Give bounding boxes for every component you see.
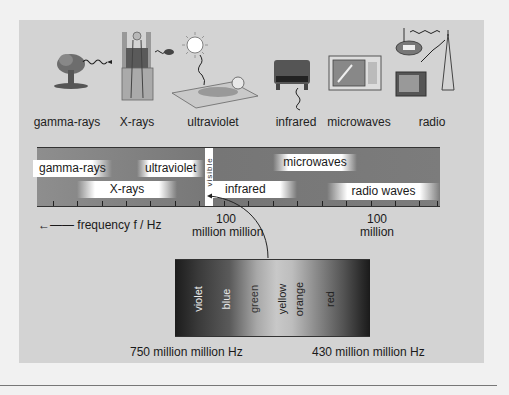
- axis-tick: [419, 201, 420, 206]
- spectrum-label-750: 750 million million Hz: [130, 346, 243, 359]
- color-label-orange: orange: [293, 282, 305, 316]
- color-label-blue: blue: [220, 289, 232, 310]
- color-label-violet: violet: [192, 286, 204, 312]
- axis-tick: [297, 201, 298, 206]
- xray-scanner-icon: [122, 32, 174, 100]
- tick-unit: million: [354, 226, 400, 239]
- band-label-ultraviolet: ultraviolet: [137, 160, 204, 177]
- axis-tick: [437, 201, 438, 206]
- source-illustrations: gamma-rays X-rays ultraviolet infrared m…: [0, 0, 509, 140]
- source-label-ultraviolet: ultraviolet: [187, 115, 238, 129]
- axis-tick: [395, 201, 396, 206]
- band-label-x-rays: X-rays: [77, 181, 177, 198]
- frequency-label-text: frequency f / Hz: [77, 218, 161, 232]
- electric-fire-icon: [274, 60, 310, 110]
- visible-label: visible: [205, 179, 214, 187]
- source-label-microwaves: microwaves: [327, 115, 390, 129]
- axis-tick: [224, 201, 225, 206]
- tick-label-100-million: 100 million: [354, 213, 400, 239]
- em-spectrum-band: gamma-rays ultraviolet X-rays microwaves…: [37, 147, 440, 207]
- color-label-red: red: [324, 291, 336, 307]
- tick-unit: million million: [192, 226, 260, 239]
- band-label-radio-waves: radio waves: [327, 183, 440, 200]
- axis-tick: [199, 201, 200, 206]
- sunbather-icon: [172, 32, 258, 108]
- band-label-gamma-rays: gamma-rays: [33, 160, 112, 177]
- source-label-infrared: infrared: [276, 115, 317, 129]
- visible-spectrum-detail: violet blue green yellow orange red: [175, 259, 370, 337]
- bottom-divider: [0, 385, 497, 386]
- tick-label-100-million-million: 100 million million: [192, 213, 260, 239]
- visible-light-strip: visible: [205, 148, 213, 206]
- axis-tick: [371, 201, 372, 206]
- spectrum-label-430: 430 million million Hz: [312, 346, 425, 359]
- source-label-gamma-rays: gamma-rays: [34, 115, 101, 129]
- radio-tv-mast-icon: [396, 28, 454, 96]
- source-label-radio: radio: [419, 115, 446, 129]
- left-arrow-icon: ←——: [38, 218, 74, 232]
- axis-tick: [346, 201, 347, 206]
- band-label-infrared: infrared: [213, 181, 297, 198]
- axis-tick: [77, 201, 78, 206]
- axis-tick: [126, 201, 127, 206]
- mushroom-cloud-icon: [54, 54, 112, 89]
- axis-tick: [248, 201, 249, 206]
- axis-tick: [322, 201, 323, 206]
- axis-tick: [53, 201, 54, 206]
- axis-tick: [175, 201, 176, 206]
- color-label-green: green: [248, 285, 260, 313]
- axis-tick: [150, 201, 151, 206]
- axis-tick: [102, 201, 103, 206]
- band-label-microwaves: microwaves: [273, 154, 357, 171]
- microwave-oven-icon: [329, 56, 381, 90]
- illustration-art: [0, 0, 509, 112]
- source-label-x-rays: X-rays: [120, 115, 155, 129]
- axis-tick: [273, 201, 274, 206]
- color-label-yellow: yellow: [276, 284, 288, 315]
- frequency-axis-label: ←—— frequency f / Hz: [38, 219, 161, 232]
